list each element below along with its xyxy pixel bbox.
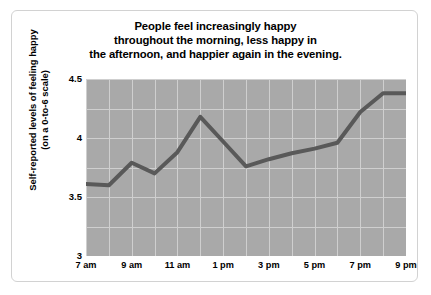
- x-tick-label: 9 pm: [395, 260, 416, 270]
- x-tick-label: 5 pm: [304, 260, 325, 270]
- x-axis-ticks: 7 am9 am11 am1 pm3 pm5 pm7 pm9 pm: [86, 258, 406, 274]
- y-tick-label: 3.5: [56, 191, 82, 202]
- series-happiness: [86, 79, 406, 256]
- x-tick-label: 7 am: [76, 260, 97, 270]
- y-axis-label: Self-reported levels of feeling happy (o…: [27, 20, 53, 200]
- x-tick-label: 3 pm: [258, 260, 279, 270]
- y-axis-ticks: 33.544.5: [54, 79, 82, 256]
- x-tick-label: 9 am: [121, 260, 142, 270]
- y-axis-label-line-1: Self-reported levels of feeling happy: [27, 20, 39, 200]
- plot-wrapper: Self-reported levels of feeling happy (o…: [12, 11, 419, 283]
- x-tick-label: 11 am: [165, 260, 191, 270]
- chart-figure: People feel increasingly happy throughou…: [11, 10, 418, 282]
- x-tick-label: 1 pm: [212, 260, 233, 270]
- y-axis-label-line-2: (on a 0-to-6 scale): [39, 20, 51, 200]
- y-tick-label: 4.5: [56, 73, 82, 84]
- x-tick-label: 7 pm: [350, 260, 371, 270]
- plot-area: [86, 79, 406, 256]
- series-line: [86, 93, 406, 185]
- y-tick-label: 4: [56, 132, 82, 143]
